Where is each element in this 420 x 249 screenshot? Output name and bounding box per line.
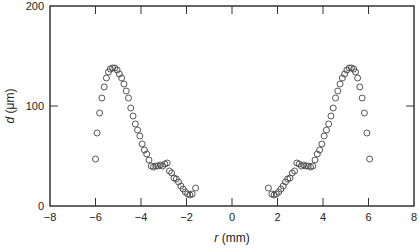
data-point	[326, 121, 332, 127]
x-axis-label: r (mm)	[214, 231, 249, 245]
plot-frame	[50, 6, 414, 206]
data-point	[94, 130, 100, 136]
plot-border	[50, 6, 414, 206]
x-tick-label: 0	[229, 211, 235, 223]
x-tick-label: −8	[44, 211, 57, 223]
data-point	[135, 127, 141, 133]
data-point	[359, 95, 365, 101]
data-point	[121, 81, 127, 87]
data-point	[130, 113, 136, 119]
data-point	[364, 130, 370, 136]
data-point	[361, 110, 367, 116]
data-point	[132, 121, 138, 127]
data-point	[137, 133, 143, 139]
data-point	[265, 185, 271, 191]
x-tick-label: −4	[135, 211, 148, 223]
scatter-chart: −8−6−4−2024680100200 r (mm) d (μm)	[0, 0, 420, 249]
data-point	[333, 95, 339, 101]
x-tick-label: −2	[180, 211, 193, 223]
x-tick-label: 4	[320, 211, 326, 223]
y-tick-label: 100	[26, 100, 44, 112]
data-point	[123, 88, 129, 94]
data-point	[367, 156, 373, 162]
y-axis-label: d (μm)	[3, 89, 17, 124]
x-tick-label: 2	[274, 211, 280, 223]
y-tick-label: 0	[38, 200, 44, 212]
data-point	[337, 81, 343, 87]
data-point	[335, 88, 341, 94]
x-tick-label: 6	[365, 211, 371, 223]
data-point	[312, 157, 318, 163]
data-points	[93, 65, 373, 198]
data-point	[103, 75, 109, 81]
data-point	[357, 84, 363, 90]
data-point	[99, 95, 105, 101]
data-point	[319, 141, 325, 147]
data-point	[97, 110, 103, 116]
data-point	[330, 105, 336, 111]
data-point	[128, 105, 134, 111]
data-point	[189, 191, 195, 197]
data-point	[146, 157, 152, 163]
axis-ticks: −8−6−4−2024680100200	[26, 0, 417, 223]
y-tick-label: 200	[26, 0, 44, 12]
x-tick-label: −6	[89, 211, 102, 223]
data-point	[321, 133, 327, 139]
data-point	[164, 160, 170, 166]
data-point	[355, 75, 361, 81]
data-point	[193, 185, 199, 191]
x-tick-label: 8	[411, 211, 417, 223]
data-point	[139, 141, 145, 147]
data-point	[323, 127, 329, 133]
data-point	[93, 156, 99, 162]
data-point	[125, 95, 131, 101]
data-point	[101, 84, 107, 90]
data-point	[310, 163, 316, 169]
data-point	[328, 113, 334, 119]
